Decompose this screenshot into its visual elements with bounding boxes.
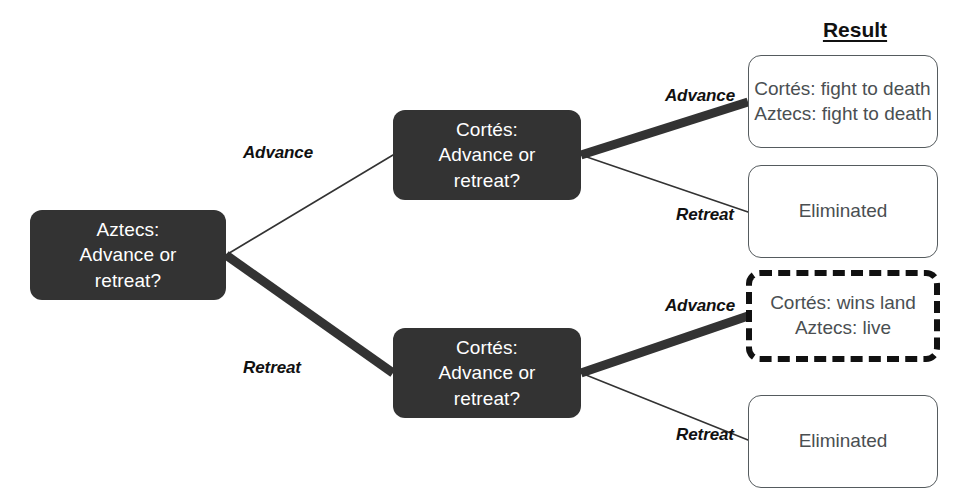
result-node-result-eliminated-lower[interactable]: Eliminated xyxy=(748,395,938,488)
decision-node-label: Cortés: Advance or retreat? xyxy=(432,335,541,410)
result-node-result-eliminated-upper[interactable]: Eliminated xyxy=(748,165,938,258)
decision-node-label: Cortés: Advance or retreat? xyxy=(432,117,541,192)
edge-edge-upper-retreat xyxy=(581,155,748,212)
edge-label-edge-lower-retreat: Retreat xyxy=(676,425,734,445)
edge-label-edge-upper-retreat: Retreat xyxy=(676,205,734,225)
decision-node-cortes-upper[interactable]: Cortés: Advance or retreat? xyxy=(393,110,581,200)
edge-label-edge-root-advance: Advance xyxy=(243,143,313,163)
result-node-label: Eliminated xyxy=(799,199,888,224)
edge-edge-root-advance xyxy=(226,155,393,255)
result-node-label: Eliminated xyxy=(799,429,888,454)
decision-node-aztecs-root[interactable]: Aztecs: Advance or retreat? xyxy=(30,210,226,300)
result-node-result-fight-to-death[interactable]: Cortés: fight to death Aztecs: fight to … xyxy=(748,55,938,148)
result-column-header: Result xyxy=(823,18,887,42)
edge-label-edge-root-retreat: Retreat xyxy=(243,358,301,378)
edge-label-edge-upper-advance: Advance xyxy=(665,86,735,106)
result-node-result-cortes-wins-land[interactable]: Cortés: wins land Aztecs: live xyxy=(746,270,940,362)
edge-edge-upper-advance xyxy=(581,102,748,155)
edge-edge-lower-advance xyxy=(581,316,748,373)
decision-tree-diagram: Result Aztecs: Advance or retreat?Cortés… xyxy=(0,0,977,495)
edge-edge-root-retreat xyxy=(226,255,393,373)
result-node-label: Cortés: fight to death Aztecs: fight to … xyxy=(754,77,931,126)
decision-node-label: Aztecs: Advance or retreat? xyxy=(73,217,182,292)
decision-node-cortes-lower[interactable]: Cortés: Advance or retreat? xyxy=(393,328,581,418)
result-node-label: Cortés: wins land Aztecs: live xyxy=(770,291,916,340)
edge-label-edge-lower-advance: Advance xyxy=(665,296,735,316)
